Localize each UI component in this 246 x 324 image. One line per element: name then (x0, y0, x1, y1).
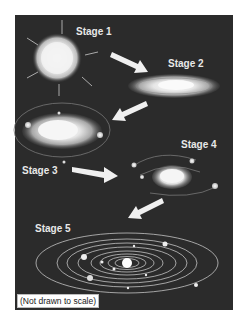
scale-note: (Not drawn to scale) (17, 294, 99, 308)
planet (87, 275, 93, 281)
stage-2-label: Stage 2 (168, 58, 204, 69)
stage-1-label: Stage 1 (76, 26, 112, 37)
sun (122, 258, 132, 268)
stage-2-disk (128, 74, 220, 98)
planet (163, 242, 168, 247)
planet (127, 287, 129, 289)
planet (113, 268, 116, 271)
planet (133, 245, 135, 247)
planet (81, 254, 87, 260)
stage-3-label: Stage 3 (22, 165, 58, 176)
stage-4-label: Stage 4 (181, 139, 217, 150)
diagram-canvas (0, 0, 246, 324)
planet (145, 274, 147, 276)
planet (101, 261, 104, 264)
planet (194, 283, 198, 287)
stage-5-label: Stage 5 (35, 223, 71, 234)
